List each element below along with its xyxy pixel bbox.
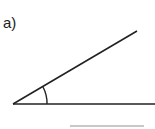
angle-upper-ray <box>13 31 137 104</box>
angle-diagram <box>0 0 155 129</box>
angle-arc-icon <box>43 87 47 104</box>
answer-line[interactable] <box>70 125 144 127</box>
